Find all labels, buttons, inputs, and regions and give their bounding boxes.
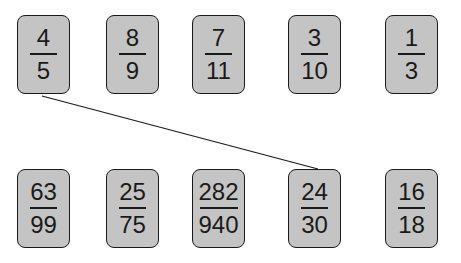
- fraction-card-bottom-1[interactable]: 63 99: [17, 169, 70, 248]
- fraction-card-top-5[interactable]: 1 3: [385, 15, 438, 94]
- denominator: 99: [30, 212, 57, 238]
- numerator: 24: [301, 179, 328, 205]
- fraction-card-top-2[interactable]: 8 9: [106, 15, 159, 94]
- fraction-card-bottom-5[interactable]: 16 18: [385, 169, 438, 248]
- denominator: 11: [206, 58, 231, 84]
- numerator: 25: [119, 179, 146, 205]
- denominator: 18: [398, 212, 425, 238]
- fraction-bar: [119, 207, 146, 209]
- fraction-bar: [30, 207, 57, 209]
- denominator: 9: [126, 58, 139, 84]
- fraction-bar: [119, 53, 146, 55]
- fraction-bar: [205, 53, 232, 55]
- numerator: 63: [30, 179, 57, 205]
- fraction-card-top-4[interactable]: 3 10: [288, 15, 341, 94]
- numerator: 282: [198, 179, 238, 205]
- fraction-bar: [301, 207, 328, 209]
- denominator: 5: [37, 58, 50, 84]
- fraction-card-bottom-2[interactable]: 25 75: [106, 169, 159, 248]
- fraction-card-bottom-4[interactable]: 24 30: [288, 169, 341, 248]
- fraction-card-bottom-3[interactable]: 282 940: [192, 169, 245, 248]
- fraction-card-top-1[interactable]: 4 5: [17, 15, 70, 94]
- denominator: 10: [301, 58, 328, 84]
- denominator: 3: [405, 58, 418, 84]
- numerator: 7: [212, 25, 225, 51]
- fraction-bar: [398, 207, 425, 209]
- numerator: 1: [405, 25, 418, 51]
- fraction-bar: [200, 207, 238, 209]
- fraction-bar: [30, 53, 57, 55]
- numerator: 8: [126, 25, 139, 51]
- fraction-bar: [398, 53, 425, 55]
- numerator: 4: [37, 25, 50, 51]
- denominator: 30: [301, 212, 328, 238]
- numerator: 3: [308, 25, 321, 51]
- fraction-bar: [301, 53, 328, 55]
- denominator: 75: [119, 212, 146, 238]
- numerator: 16: [398, 179, 425, 205]
- fraction-card-top-3[interactable]: 7 11: [192, 15, 245, 94]
- denominator: 940: [198, 212, 238, 238]
